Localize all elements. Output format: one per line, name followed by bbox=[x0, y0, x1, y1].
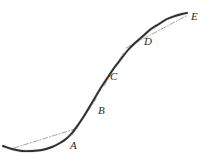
curve-point-label-e: E bbox=[191, 11, 198, 22]
curve-point-label-d: D bbox=[144, 36, 152, 47]
curve-point-label-b: B bbox=[98, 105, 105, 116]
curve-point-label-a: A bbox=[70, 140, 77, 151]
curve-figure-svg bbox=[0, 0, 210, 167]
figure-container: A B C D E bbox=[0, 0, 210, 167]
curve-point-label-c: C bbox=[110, 71, 117, 82]
